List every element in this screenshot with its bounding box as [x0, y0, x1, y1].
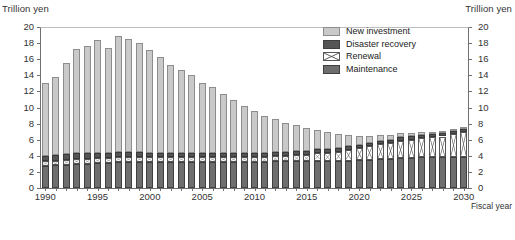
x-tick-mark	[213, 188, 214, 191]
y-tick-label-right: 18	[478, 38, 502, 48]
y-tick-label-left: 12	[10, 86, 34, 96]
x-tick-mark	[223, 188, 224, 191]
bar-segment-disaster_recovery	[146, 153, 153, 158]
bar-segment-maintenance	[356, 160, 363, 188]
y-tick-label-left: 14	[10, 70, 34, 80]
y-tick-label-right: 12	[478, 86, 502, 96]
bar-stack	[209, 27, 216, 188]
legend-swatch-renewal	[323, 52, 340, 61]
bar-segment-maintenance	[450, 157, 457, 188]
bar-segment-renewal	[366, 146, 373, 160]
bar-segment-renewal	[314, 153, 321, 160]
y-tick-mark-left	[37, 43, 40, 44]
bar-segment-maintenance	[84, 164, 91, 188]
bar-segment-renewal	[418, 138, 425, 157]
bar-stack	[303, 27, 310, 188]
x-tick-label: 2010	[244, 192, 265, 202]
bar-segment-disaster_recovery	[397, 137, 404, 140]
bar-segment-maintenance	[408, 158, 415, 188]
bar-stack	[167, 27, 174, 188]
bar-stack	[199, 27, 206, 188]
bar-segment-disaster_recovery	[324, 149, 331, 153]
bar-segment-renewal	[52, 161, 59, 166]
bar-segment-disaster_recovery	[345, 146, 352, 150]
bar-segment-renewal	[125, 157, 132, 162]
bar-segment-new_investment	[282, 123, 289, 152]
bar-segment-renewal	[345, 150, 352, 160]
bar-segment-maintenance	[397, 158, 404, 188]
bar-segment-renewal	[209, 157, 216, 162]
y-tick-mark-left	[37, 188, 40, 189]
bar-segment-disaster_recovery	[199, 153, 206, 158]
bar-segment-new_investment	[42, 83, 49, 156]
bar-segment-new_investment	[303, 128, 310, 151]
bar-stack	[314, 27, 321, 188]
bar-segment-renewal	[450, 134, 457, 157]
bar-segment-maintenance	[125, 162, 132, 188]
bar-stack	[188, 27, 195, 188]
bar-segment-disaster_recovery	[377, 141, 384, 144]
bar-segment-renewal	[199, 157, 206, 162]
bar-stack	[261, 27, 268, 188]
bar-segment-new_investment	[408, 133, 415, 136]
bar-stack	[251, 27, 258, 188]
bar-segment-new_investment	[136, 43, 143, 152]
y-tick-mark-left	[37, 172, 40, 173]
bar-segment-renewal	[167, 157, 174, 162]
bar-stack	[282, 27, 289, 188]
y-tick-label-left: 20	[10, 22, 34, 32]
bar-stack	[105, 27, 112, 188]
legend-swatch-disaster_recovery	[323, 40, 340, 49]
x-tick-mark	[171, 188, 172, 191]
y-tick-label-left: 8	[10, 119, 34, 129]
bar-segment-new_investment	[73, 49, 80, 154]
bar-segment-new_investment	[178, 70, 185, 152]
bar-segment-new_investment	[199, 83, 206, 153]
y-tick-mark-right	[469, 75, 472, 76]
bar-segment-maintenance	[314, 161, 321, 188]
x-tick-mark	[391, 188, 392, 191]
y-tick-label-right: 4	[478, 151, 502, 161]
bar-segment-renewal	[303, 155, 310, 161]
bar-stack	[178, 27, 185, 188]
bar-segment-new_investment	[230, 100, 237, 152]
bar-segment-maintenance	[73, 164, 80, 188]
bar-segment-new_investment	[356, 136, 363, 145]
bar-segment-renewal	[408, 140, 415, 159]
x-tick-mark	[181, 188, 182, 191]
bar-stack	[157, 27, 164, 188]
x-tick-mark	[432, 188, 433, 191]
bar-segment-renewal	[188, 157, 195, 162]
bar-segment-new_investment	[84, 46, 91, 153]
bar-segment-new_investment	[314, 130, 321, 149]
bar-segment-disaster_recovery	[241, 153, 248, 158]
y-tick-label-right: 2	[478, 167, 502, 177]
legend-item-new_investment: New investment	[323, 26, 416, 38]
bar-stack	[418, 27, 425, 188]
bar-segment-renewal	[94, 158, 101, 163]
bar-segment-disaster_recovery	[418, 135, 425, 138]
y-tick-label-right: 16	[478, 54, 502, 64]
x-tick-mark	[129, 188, 130, 191]
bar-segment-disaster_recovery	[63, 154, 70, 160]
y-tick-label-right: 14	[478, 70, 502, 80]
legend-label: Maintenance	[346, 65, 398, 74]
y-tick-mark-right	[469, 27, 472, 28]
x-tick-mark	[338, 188, 339, 191]
x-tick-mark	[370, 188, 371, 191]
bar-segment-maintenance	[303, 161, 310, 188]
x-tick-mark	[66, 188, 67, 191]
bar-segment-disaster_recovery	[303, 151, 310, 155]
y-tick-label-left: 10	[10, 103, 34, 113]
bar-segment-maintenance	[42, 166, 49, 188]
bar-segment-maintenance	[52, 165, 59, 188]
bar-segment-maintenance	[115, 162, 122, 188]
legend-label: Disaster recovery	[346, 40, 416, 49]
x-tick-mark	[77, 188, 78, 191]
bar-segment-disaster_recovery	[115, 152, 122, 158]
bar-segment-maintenance	[460, 157, 467, 188]
bar-segment-disaster_recovery	[439, 133, 446, 136]
y-tick-mark-right	[469, 172, 472, 173]
y-tick-label-left: 16	[10, 54, 34, 64]
bar-segment-maintenance	[136, 162, 143, 188]
